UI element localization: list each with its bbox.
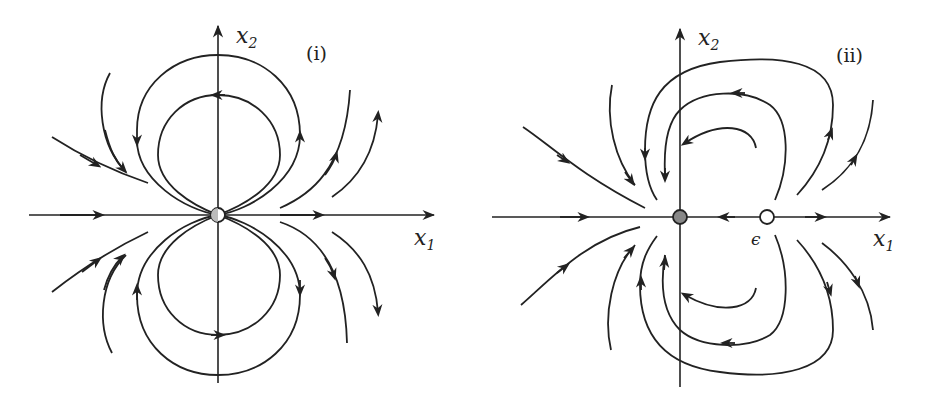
traj-arrow (325, 155, 336, 175)
x2-axis-label: x2 (236, 23, 257, 51)
top-outer-loop-seg3 (137, 140, 218, 215)
bottom-small-arc (685, 288, 756, 308)
bottom-inner-loop-seg1 (158, 215, 218, 335)
bottom-inner-loop-seg2 (218, 215, 280, 335)
top-small-arc (685, 128, 756, 148)
traj-arrow (105, 130, 124, 170)
traj-arrow (557, 266, 566, 273)
traj-arrow (82, 260, 98, 272)
panel-ii: x2 x1 ϵ (ii) (492, 25, 894, 387)
x1-axis-label: x1 (873, 226, 894, 254)
traj-upper-right-2 (332, 115, 378, 197)
phase-portraits: x2 x1 (i) (0, 0, 926, 405)
x2-axis-label: x2 (698, 25, 719, 53)
bottom-outer-loop (640, 236, 833, 375)
bottom-outer-loop-seg3 (218, 215, 300, 295)
traj-upper-left-2 (610, 85, 635, 185)
traj-lower-right (822, 243, 873, 330)
traj-upper-left-1 (52, 137, 148, 183)
panel-tag: (ii) (836, 44, 863, 66)
traj-arrow (624, 249, 632, 258)
traj-lower-left-1 (521, 227, 640, 305)
panel-tag: (i) (306, 42, 327, 64)
bottom-outer-loop-seg1 (137, 215, 218, 295)
top-middle-loop (665, 94, 786, 200)
traj-arrow (625, 172, 632, 182)
traj-upper-right (822, 100, 873, 190)
equilibrium-origin (673, 210, 687, 224)
top-outer-loop-seg1 (218, 135, 300, 215)
panel-i: x2 x1 (i) (29, 23, 435, 383)
traj-arrow (325, 258, 334, 276)
top-inner-loop-seg1 (218, 95, 280, 215)
traj-lower-right-2 (332, 232, 378, 312)
equilibrium-epsilon (760, 210, 774, 224)
traj-lower-left-2 (103, 255, 126, 353)
traj-lower-left-1 (52, 232, 148, 292)
x1-axis-label: x1 (414, 225, 435, 253)
traj-lower-right-1 (280, 222, 347, 343)
traj-arrow (664, 260, 665, 270)
epsilon-label: ϵ (751, 229, 761, 249)
traj-upper-left-1 (523, 127, 645, 208)
top-inner-loop-seg2 (158, 95, 218, 215)
bottom-middle-loop (663, 235, 786, 345)
traj-lower-left-2 (608, 245, 635, 350)
